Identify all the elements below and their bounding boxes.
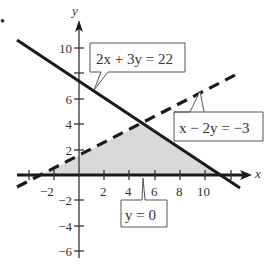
svg-text:8: 8: [176, 184, 183, 199]
svg-text:−4: −4: [58, 219, 72, 234]
y-axis-label: y: [70, 3, 78, 18]
bullet: •: [0, 14, 5, 29]
callout-eq3-text: y = 0: [125, 207, 156, 223]
svg-text:2: 2: [66, 143, 73, 158]
svg-text:10: 10: [59, 41, 72, 56]
callout-eq1-text: 2x + 3y = 22: [96, 51, 173, 67]
svg-text:4: 4: [125, 184, 132, 199]
svg-text:6: 6: [66, 92, 73, 107]
svg-text:2: 2: [100, 184, 107, 199]
svg-text:6: 6: [151, 184, 158, 199]
x-axis-label: x: [254, 166, 261, 181]
callout-eq2-text: x − 2y = −3: [179, 120, 249, 136]
svg-text:−6: −6: [58, 244, 72, 259]
svg-text:10: 10: [197, 184, 210, 199]
svg-text:−2: −2: [58, 193, 72, 208]
graph: −2 2 4 6 8 10 10 6 4 2 −2 −4 −6 y x • 2x…: [0, 0, 264, 273]
svg-text:−2: −2: [40, 184, 54, 199]
svg-text:4: 4: [66, 117, 73, 132]
